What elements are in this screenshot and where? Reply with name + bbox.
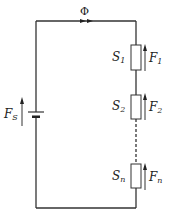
reluctance-n-icon [131,164,141,188]
source-arrow-icon [20,97,24,126]
mmf-n-arrow-icon [143,163,147,190]
reluctance-2-icon [131,95,141,119]
source-label: FS [3,107,18,122]
reluctance-1-label: S1 [112,50,125,65]
mmf-n-label: Fn [148,170,162,185]
flux-label: Φ [80,5,89,18]
reluctance-1-icon [131,45,141,70]
mmf-2-label: F2 [148,100,162,115]
mmf-2-arrow-icon [143,93,147,120]
mmf-source-icon [28,112,44,118]
reluctance-n-label: Sn [112,169,125,184]
mmf-1-arrow-icon [143,44,147,71]
magnetic-circuit-diagram: Φ FS S1 F1 S2 F2 Sn Fn [0,0,171,216]
mmf-1-label: F1 [148,51,162,66]
reluctance-2-label: S2 [112,99,125,114]
